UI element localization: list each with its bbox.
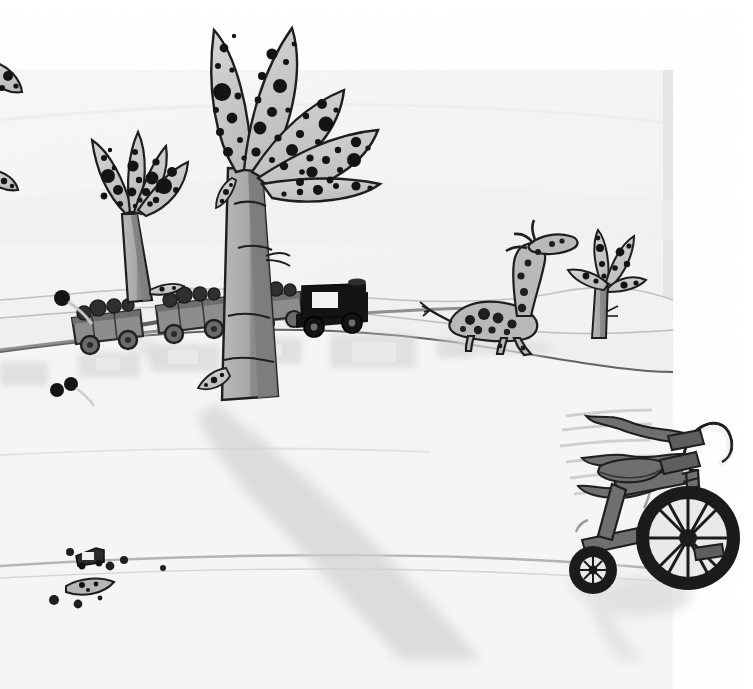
tricycle-front-wheel: [636, 486, 740, 590]
tricycle-pedal[interactable]: [694, 544, 724, 560]
illustration-artwork: [0, 0, 753, 689]
locomotive-window: [312, 292, 338, 308]
illustration-canvas: [0, 0, 753, 689]
tricycle-rear-wheel-left: [569, 546, 617, 594]
